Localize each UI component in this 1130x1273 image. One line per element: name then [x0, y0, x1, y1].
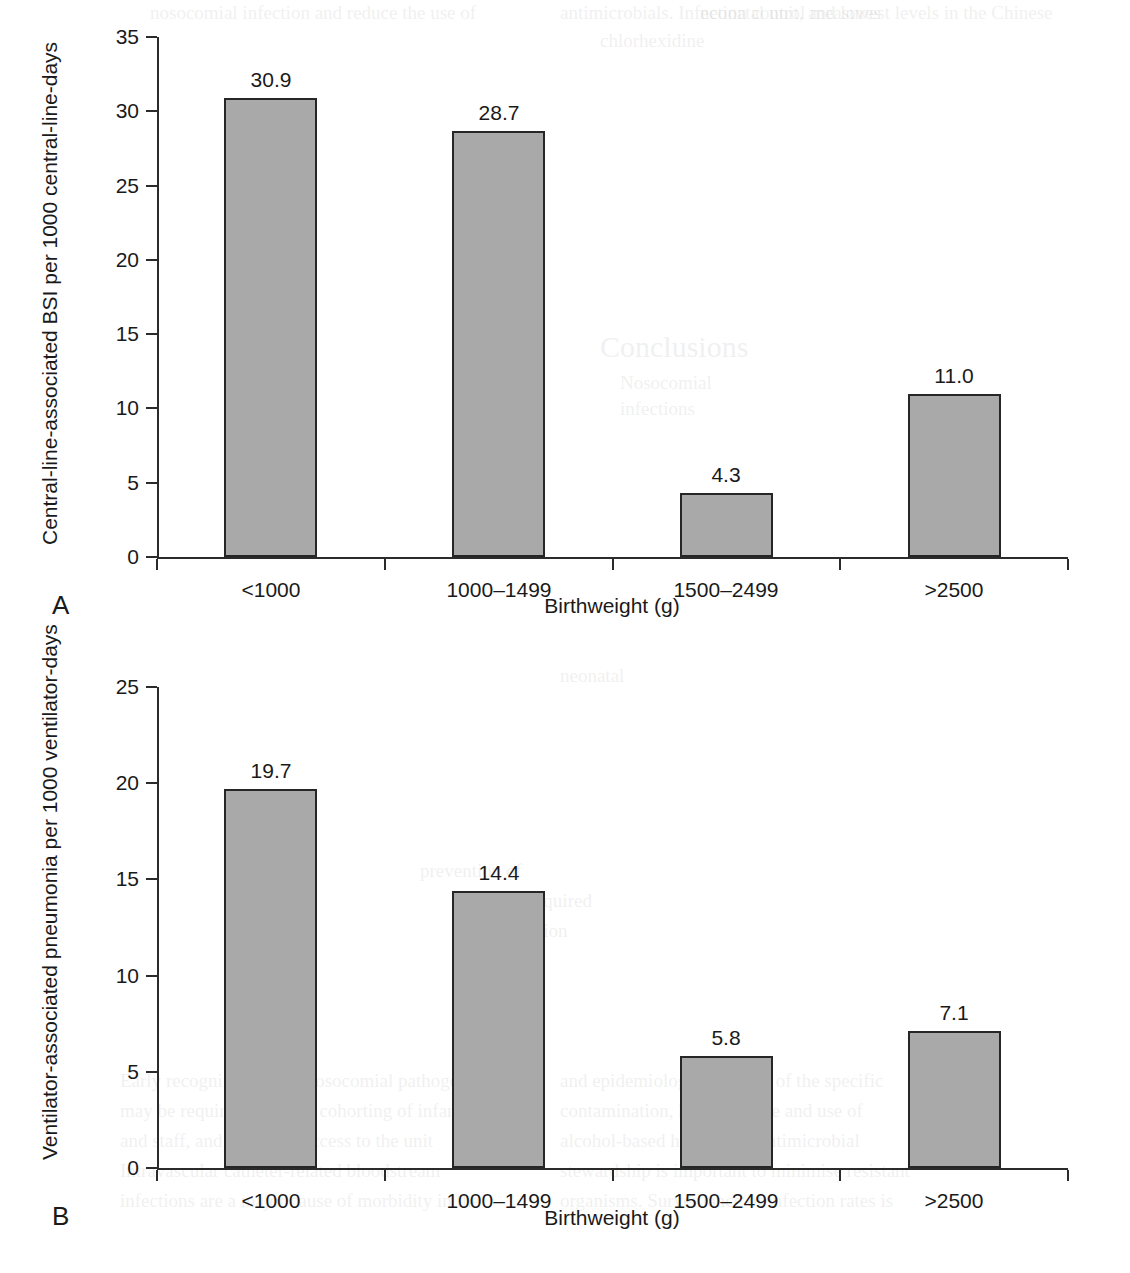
y-axis-tick	[146, 556, 157, 558]
y-axis-tick	[146, 482, 157, 484]
x-axis-category-label: <1000	[161, 579, 381, 600]
y-axis-tick	[146, 975, 157, 977]
y-axis-tick-label: 25	[57, 676, 139, 697]
y-axis-tick-label: 35	[57, 26, 139, 47]
x-axis-tick	[612, 1170, 614, 1181]
y-axis-tick-label: 15	[57, 323, 139, 344]
bar-value-label: 5.8	[656, 1027, 796, 1048]
y-axis-tick	[146, 1167, 157, 1169]
bar	[452, 891, 545, 1168]
y-axis-tick-label: 5	[57, 472, 139, 493]
bar-value-label: 19.7	[201, 760, 341, 781]
y-axis-line	[157, 687, 159, 1169]
y-axis-tick-label: 15	[57, 868, 139, 889]
bar	[908, 1031, 1001, 1168]
x-axis-category-label: >2500	[844, 1190, 1064, 1211]
x-axis-tick	[612, 559, 614, 570]
bar	[224, 98, 317, 557]
bar-value-label: 28.7	[429, 102, 569, 123]
x-axis-tick	[839, 1170, 841, 1181]
y-axis-tick	[146, 782, 157, 784]
bar-value-label: 11.0	[884, 365, 1024, 386]
y-axis-tick	[146, 407, 157, 409]
bar-value-label: 14.4	[429, 862, 569, 883]
chart-panel-b: 051015202519.7<100014.41000–14995.81500–…	[0, 640, 1130, 1273]
bar-value-label: 4.3	[656, 464, 796, 485]
x-axis-tick	[156, 559, 158, 570]
y-axis-tick-label: 30	[57, 100, 139, 121]
y-axis-tick	[146, 333, 157, 335]
y-axis-tick	[146, 1071, 157, 1073]
y-axis-title: Ventilator-associated pneumonia per 1000…	[38, 624, 62, 1160]
x-axis-title: Birthweight (g)	[462, 594, 762, 618]
x-axis-tick	[156, 1170, 158, 1181]
x-axis-tick	[1067, 559, 1069, 570]
x-axis-tick	[384, 559, 386, 570]
y-axis-tick	[146, 686, 157, 688]
x-axis-title: Birthweight (g)	[462, 1206, 762, 1230]
y-axis-line	[157, 37, 159, 558]
bar	[224, 789, 317, 1168]
y-axis-tick-label: 10	[57, 397, 139, 418]
y-axis-tick-label: 0	[57, 1157, 139, 1178]
bar-chart-a: 0510152025303530.9<100028.71000–14994.31…	[0, 0, 1130, 561]
y-axis-tick-label: 20	[57, 772, 139, 793]
y-axis-tick	[146, 110, 157, 112]
y-axis-tick	[146, 185, 157, 187]
figure-page: { "figure": { "panels": [ { "letter": "A…	[0, 0, 1130, 1273]
x-axis-tick	[1067, 1170, 1069, 1181]
y-axis-tick	[146, 259, 157, 261]
bar	[680, 1056, 773, 1168]
y-axis-tick-label: 25	[57, 175, 139, 196]
bar-value-label: 30.9	[201, 69, 341, 90]
bar	[452, 131, 545, 557]
x-axis-category-label: >2500	[844, 579, 1064, 600]
panel-letter-a: A	[52, 592, 69, 618]
bar-chart-b: 051015202519.7<100014.41000–14995.81500–…	[0, 640, 1130, 1172]
bar	[680, 493, 773, 557]
x-axis-category-label: <1000	[161, 1190, 381, 1211]
x-axis-tick	[839, 559, 841, 570]
x-axis-tick	[384, 1170, 386, 1181]
chart-panel-a: 0510152025303530.9<100028.71000–14994.31…	[0, 0, 1130, 630]
y-axis-tick	[146, 36, 157, 38]
y-axis-title: Central-line-associated BSI per 1000 cen…	[38, 42, 62, 545]
y-axis-tick-label: 0	[57, 546, 139, 567]
bar	[908, 394, 1001, 557]
y-axis-tick	[146, 878, 157, 880]
y-axis-tick-label: 10	[57, 965, 139, 986]
y-axis-tick-label: 5	[57, 1061, 139, 1082]
y-axis-tick-label: 20	[57, 249, 139, 270]
bar-value-label: 7.1	[884, 1002, 1024, 1023]
panel-letter-b: B	[52, 1203, 69, 1229]
